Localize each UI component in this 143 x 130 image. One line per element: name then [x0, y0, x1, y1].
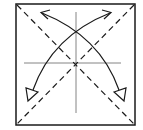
origami-diagram	[0, 0, 143, 130]
